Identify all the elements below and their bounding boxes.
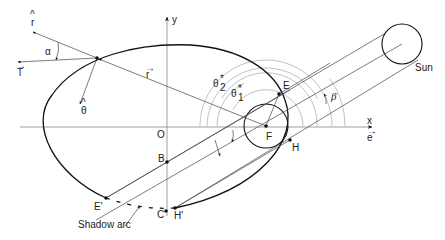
E-label: E	[283, 80, 290, 91]
thrust-label: T →	[16, 60, 26, 78]
e-vector-arrow-mark: →	[367, 125, 377, 136]
y-axis-label: y	[172, 14, 177, 25]
shadow-arc-label: Shadow arc	[78, 219, 131, 230]
H-label: H	[292, 142, 299, 153]
svg-text:→: →	[145, 62, 155, 73]
svg-text:^: ^	[81, 97, 86, 108]
theta-hat-label: θ ^	[81, 97, 87, 116]
theta1-arrow	[232, 130, 233, 142]
svg-text:*: *	[220, 73, 224, 84]
r-hat-vector	[33, 32, 97, 58]
alpha-arc	[56, 42, 59, 60]
svg-text:*: *	[238, 83, 242, 94]
sun-label: Sun	[415, 62, 433, 73]
svg-text:θ: θ	[213, 78, 219, 89]
beta-arrow	[324, 94, 326, 104]
B-label: B	[158, 153, 165, 164]
svg-text:^: ^	[30, 9, 35, 20]
alpha-label: α	[45, 46, 51, 57]
shadow-arc	[106, 198, 175, 208]
point-B	[165, 160, 169, 164]
theta1-star-label: θ 1 *	[231, 83, 244, 103]
point-F	[264, 124, 268, 128]
line-F-E	[266, 94, 279, 126]
point-C	[164, 209, 168, 213]
radius-vector-label: r →	[145, 62, 155, 80]
E-prime-label: E'	[94, 201, 103, 212]
beta-label: β	[330, 90, 337, 102]
point-E-prime	[104, 196, 108, 200]
r-hat-label: r ^	[30, 9, 35, 28]
point-E	[277, 92, 281, 96]
C-label: C	[157, 209, 164, 220]
svg-text:θ: θ	[231, 88, 237, 99]
theta2-star-label: θ 2 *	[213, 73, 226, 93]
focus-label: F	[266, 131, 272, 142]
orbit-lit-arc	[43, 45, 288, 208]
orbit-diagram: y x e → O F E H E' H' B C Sun β α θ 2 * …	[0, 0, 445, 240]
thrust-vector	[18, 58, 97, 62]
origin-label: O	[157, 129, 165, 140]
svg-text:→: →	[16, 60, 26, 71]
orbit-point	[95, 56, 99, 60]
theta2-arrow	[215, 140, 220, 156]
H-prime-label: H'	[174, 210, 183, 221]
